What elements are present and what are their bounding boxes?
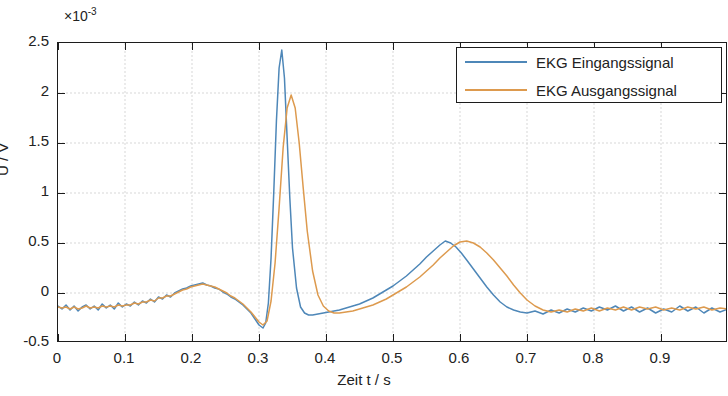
y-tick-label: 1 — [5, 182, 49, 199]
y-tick-right — [719, 143, 726, 144]
x-tick-top — [125, 43, 126, 50]
x-tick — [460, 334, 461, 341]
x-tick-label: 0 — [27, 349, 87, 366]
x-tick-label: 0.3 — [228, 349, 288, 366]
y-tick-right — [719, 293, 726, 294]
x-tick-top — [259, 43, 260, 50]
y-tick-label: 2.5 — [5, 32, 49, 49]
y-tick — [58, 143, 65, 144]
x-tick — [259, 334, 260, 341]
y-tick-label: 0 — [5, 282, 49, 299]
x-tick-label: 0.2 — [161, 349, 221, 366]
y-tick-label: 0.5 — [5, 232, 49, 249]
x-tick — [326, 334, 327, 341]
x-tick — [125, 334, 126, 341]
series-line-ausgangssignal — [58, 95, 726, 325]
y-tick-label: -0.5 — [5, 332, 49, 349]
x-tick-label: 0.8 — [563, 349, 623, 366]
x-tick-top — [326, 43, 327, 50]
y-tick-right — [719, 193, 726, 194]
y-tick-right — [719, 243, 726, 244]
x-tick-label: 0.9 — [630, 349, 690, 366]
legend-entry-ausgangssignal: EKG Ausgangssignal — [457, 76, 721, 104]
y-tick-label: 1.5 — [5, 132, 49, 149]
y-tick — [58, 243, 65, 244]
legend-label-ausgangssignal: EKG Ausgangssignal — [536, 82, 677, 99]
x-tick-top — [192, 43, 193, 50]
ekg-figure: ×10-3 U / V Zeit t / s 00.10.20.30.40.50… — [0, 0, 728, 396]
legend-label-eingangssignal: EKG Eingangssignal — [536, 54, 674, 71]
x-tick — [661, 334, 662, 341]
legend-swatch-ausgangssignal — [465, 89, 527, 91]
x-tick-label: 0.4 — [295, 349, 355, 366]
y-axis-exponent: ×10-3 — [64, 6, 97, 24]
legend-entry-eingangssignal: EKG Eingangssignal — [457, 48, 721, 76]
y-tick — [58, 193, 65, 194]
x-tick-label: 0.5 — [362, 349, 422, 366]
x-tick — [527, 334, 528, 341]
legend-box: EKG Eingangssignal EKG Ausgangssignal — [456, 47, 722, 103]
x-axis-title: Zeit t / s — [0, 371, 728, 388]
exponent-superscript: -3 — [88, 6, 97, 17]
x-tick — [192, 334, 193, 341]
x-tick — [393, 334, 394, 341]
y-tick-label: 2 — [5, 82, 49, 99]
x-tick-label: 0.6 — [429, 349, 489, 366]
x-tick-top — [393, 43, 394, 50]
y-tick — [58, 293, 65, 294]
legend-swatch-eingangssignal — [465, 61, 527, 63]
exponent-prefix: ×10 — [64, 8, 88, 24]
x-tick-label: 0.7 — [496, 349, 556, 366]
x-tick — [594, 334, 595, 341]
x-tick — [58, 334, 59, 341]
y-tick — [58, 93, 65, 94]
x-tick-label: 0.1 — [94, 349, 154, 366]
x-tick-top — [58, 43, 59, 50]
